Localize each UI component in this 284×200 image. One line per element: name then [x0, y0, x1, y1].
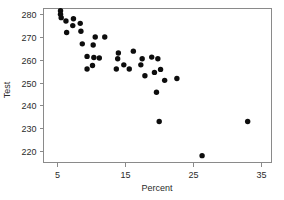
data-point — [59, 15, 64, 20]
scatter-plot-figure: 220230240250260270280 5152535 Percent Te… — [0, 0, 284, 200]
data-point — [97, 55, 102, 60]
data-point — [139, 56, 144, 61]
x-tick-label: 25 — [188, 170, 198, 180]
y-tick-label: 230 — [21, 124, 36, 134]
y-tick-label: 240 — [21, 101, 36, 111]
data-point — [116, 50, 121, 55]
data-point — [155, 56, 160, 61]
y-axis-title: Test — [2, 81, 12, 98]
y-tick-label: 270 — [21, 33, 36, 43]
data-point — [78, 21, 83, 26]
data-point — [90, 63, 95, 68]
x-tick-label: 15 — [120, 170, 130, 180]
data-point — [174, 76, 179, 81]
data-point — [127, 66, 132, 71]
y-tick-label: 250 — [21, 79, 36, 89]
data-point — [102, 34, 107, 39]
data-point — [157, 119, 162, 124]
x-tick-label: 35 — [256, 170, 266, 180]
figure-background — [0, 0, 284, 200]
data-point — [80, 41, 85, 46]
data-point — [245, 119, 250, 124]
data-point — [84, 54, 89, 59]
data-point — [142, 73, 147, 78]
plot-canvas: 220230240250260270280 5152535 Percent Te… — [0, 0, 284, 200]
x-axis-title: Percent — [141, 183, 173, 193]
data-point — [91, 55, 96, 60]
data-point — [63, 18, 68, 23]
data-point — [152, 70, 157, 75]
data-point — [70, 23, 75, 28]
y-tick-label: 280 — [21, 10, 36, 20]
data-point — [64, 30, 69, 35]
data-point — [78, 29, 83, 34]
y-tick-label: 260 — [21, 56, 36, 66]
data-point — [115, 56, 120, 61]
data-point — [71, 16, 76, 21]
data-point — [131, 48, 136, 53]
data-point — [149, 54, 154, 59]
x-tick-label: 5 — [55, 170, 60, 180]
data-point — [138, 62, 143, 67]
data-point — [121, 62, 126, 67]
data-point — [114, 66, 119, 71]
data-point — [199, 153, 204, 158]
data-point — [84, 66, 89, 71]
data-point — [162, 78, 167, 83]
data-point — [158, 67, 163, 72]
data-point — [154, 90, 159, 95]
y-tick-label: 220 — [21, 147, 36, 157]
data-point — [93, 34, 98, 39]
data-point — [90, 42, 95, 47]
